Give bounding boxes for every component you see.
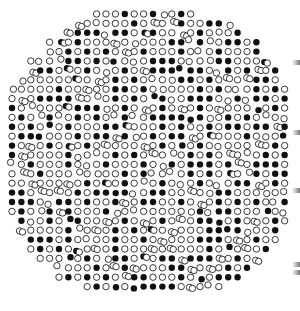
open-circle bbox=[35, 58, 41, 64]
filled-circle bbox=[18, 208, 24, 214]
open-circle bbox=[216, 152, 222, 158]
filled-circle bbox=[28, 236, 34, 242]
open-circle bbox=[281, 86, 287, 92]
open-circle bbox=[159, 152, 165, 158]
open-circle bbox=[57, 188, 63, 194]
open-circle bbox=[234, 133, 240, 139]
open-circle bbox=[169, 86, 175, 92]
open-circle bbox=[56, 142, 62, 148]
open-circle bbox=[281, 105, 287, 111]
open-circle bbox=[166, 168, 172, 174]
filled-circle bbox=[178, 20, 184, 26]
open-circle bbox=[187, 20, 193, 26]
filled-circle bbox=[131, 95, 137, 101]
open-circle bbox=[84, 58, 90, 64]
open-circle bbox=[225, 30, 231, 36]
open-circle bbox=[169, 274, 175, 280]
open-circle bbox=[93, 274, 99, 280]
open-circle bbox=[122, 161, 128, 167]
open-circle bbox=[75, 236, 81, 242]
open-circle bbox=[168, 97, 174, 103]
filled-circle bbox=[281, 171, 287, 177]
open-circle bbox=[159, 48, 165, 54]
filled-circle bbox=[225, 39, 231, 45]
filled-circle bbox=[206, 124, 212, 130]
filled-circle bbox=[206, 246, 212, 252]
filled-circle bbox=[272, 161, 278, 167]
open-circle bbox=[93, 48, 99, 54]
open-circle bbox=[129, 112, 135, 118]
filled-circle bbox=[216, 219, 222, 225]
filled-circle bbox=[178, 48, 184, 54]
open-circle bbox=[103, 265, 109, 271]
filled-circle bbox=[169, 133, 175, 139]
open-circle bbox=[37, 161, 43, 167]
filled-circle bbox=[169, 114, 175, 120]
edge-mark bbox=[292, 270, 300, 275]
open-circle bbox=[131, 236, 137, 242]
open-circle bbox=[103, 86, 109, 92]
open-circle bbox=[103, 246, 109, 252]
open-circle bbox=[159, 208, 165, 214]
open-circle bbox=[112, 274, 118, 280]
open-circle bbox=[205, 209, 211, 215]
open-circle bbox=[46, 105, 52, 111]
open-circle bbox=[130, 59, 136, 65]
open-circle bbox=[244, 236, 250, 242]
open-circle bbox=[56, 180, 62, 186]
open-circle bbox=[206, 274, 212, 280]
open-circle bbox=[150, 255, 156, 261]
open-circle bbox=[122, 142, 128, 148]
open-circle bbox=[93, 180, 99, 186]
filled-circle bbox=[122, 218, 128, 224]
open-circle bbox=[234, 265, 240, 271]
open-circle bbox=[187, 124, 193, 130]
filled-circle bbox=[93, 189, 99, 195]
open-circle bbox=[281, 161, 287, 167]
open-circle bbox=[234, 114, 240, 120]
open-circle bbox=[140, 227, 146, 233]
open-circle bbox=[197, 58, 203, 64]
filled-circle bbox=[65, 208, 71, 214]
open-circle bbox=[263, 134, 269, 140]
filled-circle bbox=[18, 189, 24, 195]
open-circle bbox=[103, 58, 109, 64]
open-circle bbox=[150, 274, 156, 280]
open-circle bbox=[56, 161, 62, 167]
open-circle bbox=[46, 171, 52, 177]
filled-circle bbox=[65, 152, 71, 158]
filled-circle bbox=[112, 246, 118, 252]
open-circle bbox=[46, 77, 52, 83]
filled-circle bbox=[169, 39, 175, 45]
open-circle bbox=[129, 191, 135, 197]
filled-circle bbox=[112, 236, 118, 242]
filled-circle bbox=[234, 30, 240, 36]
open-circle bbox=[206, 199, 212, 205]
open-circle bbox=[84, 133, 90, 139]
open-circle bbox=[123, 200, 129, 206]
filled-circle bbox=[253, 161, 259, 167]
filled-circle bbox=[197, 255, 203, 261]
filled-circle bbox=[280, 132, 286, 138]
open-circle bbox=[227, 22, 233, 28]
open-circle bbox=[56, 152, 62, 158]
open-circle bbox=[122, 95, 128, 101]
open-circle bbox=[103, 227, 109, 233]
open-circle bbox=[159, 227, 165, 233]
filled-circle bbox=[103, 161, 109, 167]
open-circle bbox=[122, 227, 128, 233]
filled-circle bbox=[272, 86, 278, 92]
open-circle bbox=[28, 58, 34, 64]
open-circle bbox=[27, 219, 33, 225]
filled-circle bbox=[225, 114, 231, 120]
open-circle bbox=[140, 152, 146, 158]
open-circle bbox=[83, 236, 89, 242]
filled-circle bbox=[234, 255, 240, 261]
open-circle bbox=[131, 142, 137, 148]
filled-circle bbox=[140, 86, 146, 92]
open-circle bbox=[46, 58, 52, 64]
open-circle bbox=[150, 180, 156, 186]
open-circle bbox=[234, 105, 240, 111]
filled-circle bbox=[84, 142, 90, 148]
open-circle bbox=[140, 11, 146, 17]
